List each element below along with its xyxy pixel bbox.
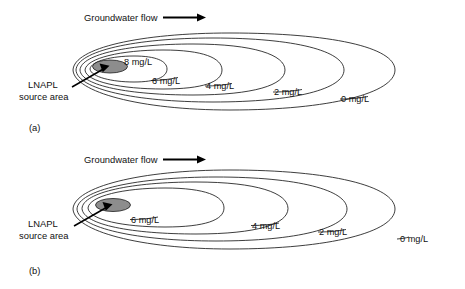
contour-label-a-2: 2 mg/L xyxy=(274,87,302,97)
groundwater-flow-arrow-a xyxy=(163,14,206,22)
source-area-label-line1-b: LNAPL xyxy=(28,218,58,229)
panel-a: Groundwater flow LNAPL source area 8 mg/… xyxy=(19,12,395,133)
panel-b: Groundwater flow LNAPL source area 6 mg/… xyxy=(19,154,428,276)
contour-label-b-4: 4 mg/L xyxy=(252,221,280,231)
contour-label-b-6: 6 mg/L xyxy=(131,215,159,225)
groundwater-flow-arrow-b xyxy=(163,156,206,164)
source-area-ellipse-b xyxy=(96,199,131,212)
source-area-label-line2-a: source area xyxy=(19,91,69,102)
contour-label-b-0: 0 mg/L xyxy=(400,234,428,244)
source-area-label-line1-a: LNAPL xyxy=(28,79,58,90)
source-area-leader-arrow-b xyxy=(74,202,113,226)
panel-letter-a: (a) xyxy=(29,122,40,133)
contour-label-a-0: 0 mg/L xyxy=(341,94,369,104)
source-area-label-line2-b: source area xyxy=(19,230,69,241)
contour-label-b-2: 2 mg/L xyxy=(319,227,347,237)
groundwater-flow-label-b: Groundwater flow xyxy=(84,154,158,165)
contour-label-a-8: 8 mg/L xyxy=(124,57,152,67)
contour-label-a-4: 4 mg/L xyxy=(206,81,234,91)
lnapl-plume-figure: Groundwater flow LNAPL source area 8 mg/… xyxy=(0,0,465,289)
panel-letter-b: (b) xyxy=(29,265,40,276)
groundwater-flow-label-a: Groundwater flow xyxy=(84,12,158,23)
contour-label-a-6: 6 mg/L xyxy=(152,76,180,86)
source-area-ellipse-a xyxy=(93,60,128,73)
